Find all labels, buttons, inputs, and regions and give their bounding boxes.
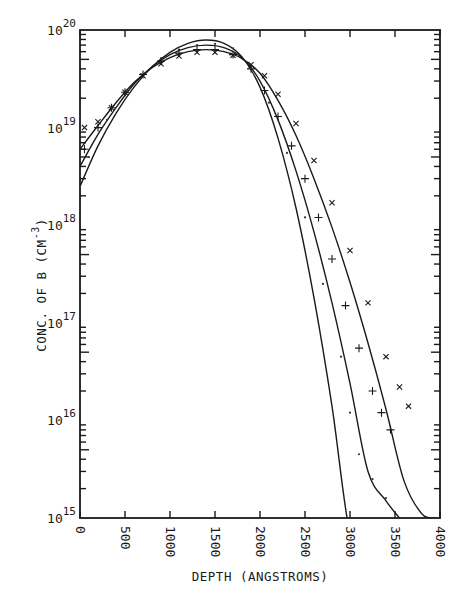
y-tick-label: 1015 [47, 505, 76, 526]
plus-marker [328, 255, 336, 263]
dot-marker [371, 478, 373, 480]
x-tick-label: 4000 [433, 526, 448, 557]
x-tick-label: 500 [118, 526, 133, 549]
y-axis-title-close: ) [34, 218, 49, 226]
plot-series [80, 40, 436, 539]
x-marker [397, 384, 402, 389]
plus-marker [342, 302, 350, 310]
plot-frame [80, 30, 440, 518]
dot-marker [88, 156, 90, 158]
x-axis-title: DEPTH (ANGSTROMS) [192, 569, 328, 584]
plus-marker [261, 86, 269, 94]
x-marker [347, 248, 352, 253]
dot-marker [232, 47, 234, 49]
plus-marker [301, 175, 309, 183]
plus-marker [387, 426, 395, 434]
x-marker [365, 300, 370, 305]
y-axis-title-sup: -3 [30, 226, 41, 239]
x-marker [82, 125, 87, 130]
chart: 101510161017101810191020 050010001500200… [0, 0, 465, 596]
x-marker [293, 121, 298, 126]
dot-marker [286, 152, 288, 154]
dot-marker [268, 102, 270, 104]
dot-marker [340, 356, 342, 358]
dot-marker [358, 453, 360, 455]
x-tick-label: 2000 [253, 526, 268, 557]
plus-marker [355, 344, 363, 352]
y-tick-labels: 101510161017101810191020 [47, 17, 76, 526]
x-marker [275, 92, 280, 97]
plus-marker [369, 387, 377, 395]
y-axis-title-main: CONC. OF B (CM [34, 239, 49, 351]
x-tick-label: 1500 [208, 526, 223, 557]
x-tick-label: 3000 [343, 526, 358, 557]
x-marker [329, 200, 334, 205]
model-curve [80, 50, 436, 518]
x-tick-label: 3500 [388, 526, 403, 557]
model-curve [80, 45, 400, 518]
y-tick-label: 1020 [47, 17, 76, 38]
dot-marker [214, 43, 216, 45]
x-tick-label: 2500 [298, 526, 313, 557]
y-tick-label: 1016 [47, 407, 76, 428]
y-tick-label: 1019 [47, 115, 76, 136]
dot-marker [385, 497, 387, 499]
plus-marker [315, 213, 323, 221]
y-tick-label: 1017 [47, 310, 76, 331]
y-tick-label: 1018 [47, 212, 76, 233]
dot-marker [304, 216, 306, 218]
x-marker [406, 404, 411, 409]
svg-text:CONC. OF B (CM-3): CONC. OF B (CM-3) [30, 218, 49, 351]
axis-ticks [80, 30, 440, 518]
x-tick-label: 1000 [163, 526, 178, 557]
x-marker [95, 119, 100, 124]
y-axis-title: CONC. OF B (CM-3) [30, 218, 49, 351]
x-marker [311, 158, 316, 163]
x-marker [383, 354, 388, 359]
dot-marker [322, 283, 324, 285]
model-curve [80, 40, 364, 539]
x-tick-label: 0 [73, 526, 88, 534]
x-tick-labels: 05001000150020002500300035004000 [73, 526, 448, 557]
dot-marker [106, 119, 108, 121]
plus-marker [378, 409, 386, 417]
dot-marker [349, 412, 351, 414]
